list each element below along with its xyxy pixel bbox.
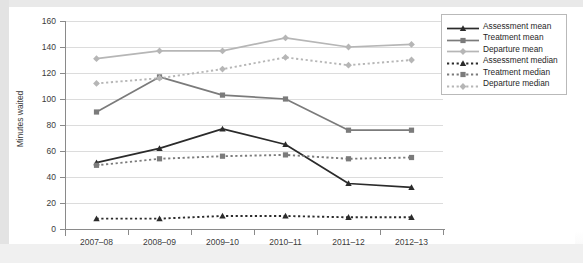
legend-item-5[interactable]: Departure median [446,78,561,90]
series-assessment-median [93,213,414,221]
legend-label: Assessment median [480,55,558,65]
plot-area: 020406080100120140160 2007–082008–092009… [65,21,443,236]
x-axis-tick-label: 2011–12 [332,237,364,247]
data-point-marker [460,72,465,77]
series-line [97,155,412,165]
data-point-marker [93,55,100,62]
data-point-marker [409,155,414,160]
data-point-marker [408,57,415,64]
data-point-marker [220,93,225,98]
legend-label: Departure mean [480,44,543,54]
data-point-marker [282,54,289,61]
y-axis-tick-label: 60 [47,146,56,156]
y-axis-label: Minutes waited [15,91,25,148]
data-point-marker [460,83,467,90]
data-point-marker [93,80,100,87]
series-line [97,129,412,188]
data-point-marker [282,213,288,219]
series-layer [65,21,443,236]
legend-item-0[interactable]: Assessment mean [446,20,561,32]
series-line [97,77,412,130]
data-point-marker [345,62,352,69]
series-departure-median [93,54,415,87]
data-point-marker [460,38,465,43]
data-point-marker [408,41,415,48]
data-point-marker [460,60,466,66]
data-point-marker [346,128,351,133]
data-point-marker [219,213,225,219]
bottom-caption [0,253,583,263]
legend-item-2[interactable]: Departure mean [446,43,561,55]
legend-swatch-icon [446,32,480,43]
legend-label: Treatment median [480,67,550,77]
y-axis-tick-label: 120 [42,68,56,78]
y-axis-tick-label: 0 [51,224,56,234]
data-point-marker [219,48,226,55]
chart-figure: Minutes waited 020406080100120140160 200… [0,0,583,263]
x-axis-tick-label: 2008–09 [143,237,176,247]
legend-item-1[interactable]: Treatment mean [446,32,561,44]
chart-legend: Assessment meanTreatment meanDeparture m… [441,14,567,95]
y-axis-tick-label: 40 [47,172,56,182]
legend-item-3[interactable]: Assessment median [446,55,561,67]
data-point-marker [345,44,352,51]
data-point-marker [282,35,289,42]
figure-frame-left [0,0,9,256]
y-axis-tick-label: 20 [47,198,56,208]
x-axis-tick-label: 2007–08 [80,237,113,247]
series-departure-mean [93,35,415,63]
data-point-marker [93,215,99,221]
data-point-marker [409,128,414,133]
series-treatment-median [94,152,414,168]
legend-swatch-icon [446,20,480,31]
data-point-marker [220,154,225,159]
legend-label: Treatment mean [480,32,544,42]
legend-item-4[interactable]: Treatment median [446,66,561,78]
data-point-marker [219,66,226,73]
data-point-marker [157,156,162,161]
y-axis-tick-label: 160 [42,16,56,26]
legend-swatch-icon [446,43,480,54]
legend-swatch-icon [446,66,480,77]
y-axis-tick-label: 140 [42,42,56,52]
x-axis-tick-label: 2010–11 [269,237,301,247]
data-point-marker [283,96,288,101]
legend-label: Assessment mean [480,21,551,31]
series-line [97,57,412,83]
data-point-marker [94,163,99,168]
data-point-marker [156,48,163,55]
data-point-marker [346,156,351,161]
series-line [97,38,412,59]
y-axis-tick-label: 80 [47,120,56,130]
y-axis-tick-label: 100 [42,94,56,104]
legend-swatch-icon [446,55,480,66]
figure-frame-top [0,0,583,7]
x-axis-tick-label: 2009–10 [206,237,239,247]
data-point-marker [283,152,288,157]
series-treatment-mean [94,74,414,132]
legend-label: Departure median [480,78,549,88]
data-point-marker [94,109,99,114]
series-line [97,216,412,219]
x-axis-tick-label: 2012–13 [395,237,428,247]
data-point-marker [156,215,162,221]
legend-swatch-icon [446,78,480,89]
